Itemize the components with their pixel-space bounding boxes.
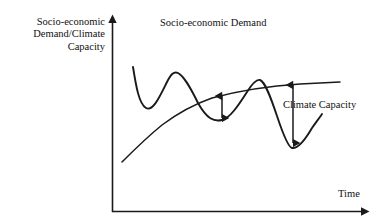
climate-capacity-curve xyxy=(122,82,340,162)
climate-capacity-label: Climate Capacity xyxy=(283,99,356,111)
y-axis-label: Socio-economic Demand/Climate Capacity xyxy=(7,16,105,53)
socio-economic-demand-label: Socio-economic Demand xyxy=(160,17,266,29)
x-axis-label: Time xyxy=(338,188,360,200)
axis-group xyxy=(112,22,362,212)
conceptual-diagram-figure: Socio-economic Demand/Climate Capacity S… xyxy=(0,0,383,224)
